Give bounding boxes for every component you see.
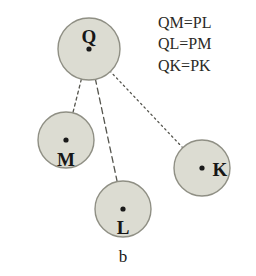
legend-equations: QM=PL QL=PM QK=PK xyxy=(158,12,254,76)
center-dot-m xyxy=(63,137,68,142)
figure-root: Q M L K b QM=PL QL=PM QK=PK xyxy=(0,0,256,276)
legend-row-2: QL=PM xyxy=(158,33,254,54)
legend-row-3: QK=PK xyxy=(158,55,254,76)
node-label-m: M xyxy=(57,149,75,170)
center-dot-q xyxy=(86,46,91,51)
center-dot-k xyxy=(199,165,204,170)
node-label-l: L xyxy=(117,217,130,238)
node-group-m[interactable]: M xyxy=(38,112,94,170)
figure-caption: b xyxy=(119,247,128,266)
legend-row-1: QM=PL xyxy=(158,12,254,33)
node-group-l[interactable]: L xyxy=(95,181,151,238)
node-label-q: Q xyxy=(82,26,97,47)
node-group-q[interactable]: Q xyxy=(58,18,120,80)
center-dot-l xyxy=(120,206,125,211)
node-label-k: K xyxy=(213,159,228,180)
node-group-k[interactable]: K xyxy=(174,140,230,196)
